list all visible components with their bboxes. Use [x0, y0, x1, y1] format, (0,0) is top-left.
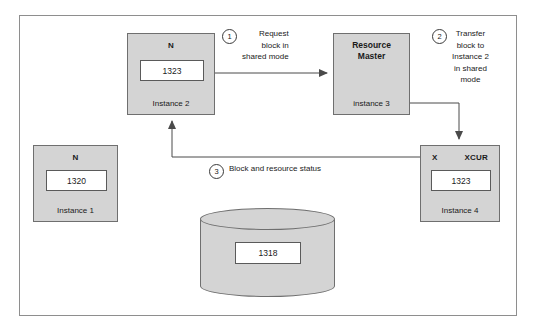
step-2-number: 2: [432, 29, 447, 44]
instance-2-block-value: 1323: [140, 60, 204, 81]
instance-4-mode-left: X: [432, 153, 438, 162]
node-resource-master: Resource Master instance 3: [333, 33, 410, 115]
instance-4-mode-labels: X XCUR: [421, 153, 499, 162]
instance-1-block-value: 1320: [46, 170, 107, 191]
instance-2-mode-label: N: [128, 41, 214, 50]
step-3-number: 3: [209, 164, 224, 179]
step-2-callout: 2 Transfer block to Instance 2 in shared…: [432, 28, 489, 86]
instance-3-name: instance 3: [334, 99, 409, 108]
rac-cache-fusion-diagram: N 1323 Instance 2 Resource Master instan…: [0, 0, 535, 334]
resource-master-title: Resource Master: [334, 40, 409, 62]
instance-1-name: Instance 1: [34, 206, 117, 215]
instance-4-mode-right: XCUR: [465, 153, 488, 162]
step-1-callout: 1 Request block in shared mode: [222, 28, 289, 63]
step-3-callout: 3 Block and resource status: [209, 163, 321, 179]
instance-2-name: Instance 2: [128, 99, 214, 108]
node-instance-2: N 1323 Instance 2: [127, 33, 215, 115]
step-1-number: 1: [222, 29, 237, 44]
instance-4-block-value: 1323: [431, 170, 491, 191]
step-1-text: Request block in shared mode: [242, 28, 289, 63]
instance-1-mode-label: N: [34, 153, 117, 162]
instance-4-name: Instance 4: [421, 206, 499, 215]
step-3-text: Block and resource status: [229, 163, 321, 175]
node-instance-4: X XCUR 1323 Instance 4: [420, 145, 500, 222]
node-instance-1: N 1320 Instance 1: [33, 145, 118, 222]
step-2-text: Transfer block to Instance 2 in shared m…: [452, 28, 489, 86]
database-block-value: 1318: [235, 242, 301, 264]
cylinder-top-ellipse: [200, 208, 335, 230]
database-cylinder: 1318: [200, 208, 335, 297]
